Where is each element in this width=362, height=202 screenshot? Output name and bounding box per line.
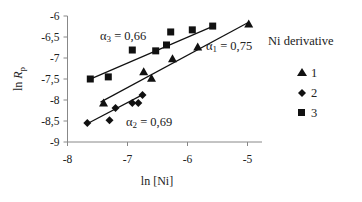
triangle-marker-icon: [193, 43, 202, 51]
triangle-marker-icon: [147, 74, 156, 82]
diamond-marker-icon: [298, 89, 306, 97]
annotation-alpha3: α3 = 0,66: [100, 29, 146, 44]
x-axis-title: ln [Ni]: [141, 174, 173, 188]
legend: Ni derivative 1 2 3: [268, 34, 334, 120]
legend-item-2: 2: [298, 86, 317, 100]
x-tick-label: -8: [63, 153, 73, 165]
annotations: α3 = 0,66 α1 = 0,75 α2 = 0,69: [100, 29, 252, 130]
square-marker-icon: [167, 28, 174, 35]
diamond-marker-icon: [106, 116, 114, 124]
x-tick-label: -7: [123, 153, 133, 165]
legend-title: Ni derivative: [268, 34, 334, 48]
triangle-marker-icon: [99, 98, 108, 106]
y-tick-label: -8,5: [41, 115, 59, 128]
square-marker-icon: [105, 73, 112, 80]
legend-label-1: 1: [311, 66, 317, 80]
y-tick-label: -9: [50, 136, 60, 148]
x-tick-label: -6: [183, 153, 193, 165]
diamond-marker-icon: [83, 119, 91, 127]
legend-item-1: 1: [297, 66, 317, 80]
annotation-alpha2: α2 = 0,69: [126, 115, 172, 130]
square-marker-icon: [163, 41, 170, 48]
y-tick-label: -8: [50, 94, 60, 106]
y-axis-title: ln Rp: [11, 66, 27, 91]
y-tick-label: -7: [50, 52, 60, 64]
y-tick-label: -6,5: [41, 31, 59, 44]
x-ticks: -8-7-6-5: [63, 142, 253, 165]
svg-text:ln Rp: ln Rp: [11, 66, 27, 91]
legend-item-3: 3: [298, 106, 317, 120]
y-tick-label: -6: [50, 10, 60, 22]
y-tick-label: -7,5: [41, 73, 59, 86]
square-marker-icon: [129, 47, 136, 54]
square-marker-icon: [298, 109, 305, 116]
y-axis-title-main: ln: [11, 79, 25, 91]
x-tick-label: -5: [243, 153, 253, 165]
diamond-marker-icon: [134, 99, 142, 107]
scatter-chart: -6-6,5-7-7,5-8-8,5-9 -8-7-6-5 ln [Ni] ln…: [0, 0, 362, 202]
legend-label-3: 3: [311, 106, 317, 120]
triangle-marker-icon: [139, 67, 148, 75]
square-marker-icon: [209, 23, 216, 30]
y-axis-title-sub: p: [17, 66, 27, 71]
square-marker-icon: [87, 76, 94, 83]
diamond-marker-icon: [139, 91, 147, 99]
square-marker-icon: [189, 26, 196, 33]
triangle-marker-icon: [297, 68, 307, 76]
y-ticks: -6-6,5-7-7,5-8-8,5-9: [41, 10, 67, 148]
legend-label-2: 2: [311, 86, 317, 100]
square-marker-icon: [152, 47, 159, 54]
triangle-marker-icon: [168, 54, 177, 62]
